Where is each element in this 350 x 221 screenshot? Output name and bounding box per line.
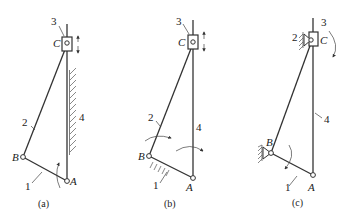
label-1: 1 (25, 180, 31, 192)
rotation-arrow-icon (285, 145, 292, 169)
label-2: 2 (292, 31, 298, 43)
linkage-diagram: 3 C 2 4 B 1 A (a) 3 C 2 (0, 0, 350, 221)
link-1 (23, 157, 67, 181)
joint-a (311, 173, 316, 178)
label-1: 1 (153, 179, 159, 191)
rotation-arrow-icon (176, 147, 203, 152)
panel-a: 3 C 2 4 B 1 A (a) (12, 15, 85, 210)
caption-a: (a) (38, 198, 49, 210)
diagram-canvas: 3 C 2 4 B 1 A (a) 3 C 2 (0, 0, 350, 221)
caption-b: (b) (164, 198, 176, 210)
label-c: C (320, 34, 328, 46)
joint-a (191, 176, 196, 181)
label-4: 4 (196, 121, 202, 133)
joint-c (65, 41, 69, 45)
link-2 (23, 47, 66, 157)
caption-c: (c) (292, 197, 303, 209)
rotation-arrow-icon (329, 31, 336, 57)
panel-c: 3 C 2 4 B 1 A (c) (258, 16, 336, 209)
joint-a (65, 179, 70, 184)
label-a: A (307, 181, 315, 193)
label-2: 2 (148, 111, 154, 123)
label-c: C (178, 36, 186, 48)
link-1 (271, 153, 313, 175)
label-4: 4 (79, 111, 85, 123)
label-b: B (138, 150, 145, 162)
label-b: B (12, 151, 19, 163)
joint-b (147, 154, 152, 159)
label-3: 3 (51, 15, 57, 27)
label-4: 4 (324, 113, 330, 125)
label-c: C (53, 37, 61, 49)
joint-c (309, 38, 313, 42)
link-2 (149, 46, 192, 156)
label-3: 3 (321, 16, 327, 28)
panel-b: 3 C 2 4 B 1 A (b) (138, 15, 204, 210)
joint-b (269, 151, 274, 156)
label-1: 1 (285, 181, 291, 193)
label-b: B (266, 136, 273, 148)
label-a: A (185, 181, 193, 193)
rotation-arrow-icon (145, 136, 171, 141)
joint-b (21, 155, 26, 160)
link-2 (271, 43, 311, 153)
label-2: 2 (22, 116, 28, 128)
label-a: A (69, 175, 77, 187)
label-3: 3 (176, 15, 182, 27)
joint-c (191, 40, 195, 44)
ground-hatch-a (70, 68, 77, 155)
